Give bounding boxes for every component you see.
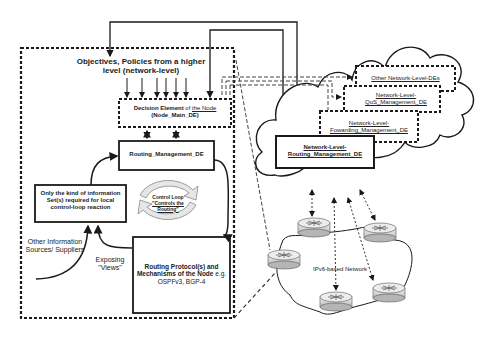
- control-loop-sub2: Routing": [157, 206, 178, 212]
- node-router-link: [234, 272, 276, 318]
- routing-management-label: Routing_Management_DE: [120, 151, 213, 158]
- diagram-canvas: [0, 0, 484, 338]
- the-node-link[interactable]: the Node: [192, 105, 216, 111]
- other-sources-label: Other Information Sources/ Suppliers: [24, 238, 86, 254]
- router-icon: [373, 283, 405, 302]
- forwarding-management-label[interactable]: Network-Level-Fowarding_Management_DE: [322, 120, 416, 134]
- network-routing-management-label[interactable]: Network-Level-Routing_Management_DE: [280, 144, 370, 158]
- router-icon: [268, 250, 300, 269]
- router-icon: [298, 218, 330, 237]
- qos-management-label[interactable]: Network-Level-QoS_Management_DE: [356, 92, 436, 106]
- routing-protocol-bold: Routing Protocol(s) and Mechanisms of th…: [137, 263, 219, 277]
- decision-element-of: of: [184, 105, 192, 111]
- exposing-views-label: Exposing "Views": [92, 256, 128, 272]
- router-icon: [364, 223, 396, 242]
- info-set-label: Only the kind of information Set(s) requ…: [37, 190, 124, 211]
- router-icon: [320, 292, 352, 311]
- objectives-title: Objectives, Policies from a higher level…: [76, 57, 206, 75]
- decision-element-label: Decision Element of the Node (Node_Main_…: [120, 105, 230, 119]
- control-loop-label: Control Loop "Controls the Routing": [143, 195, 193, 212]
- routing-protocol-label: Routing Protocol(s) and Mechanisms of th…: [135, 263, 228, 285]
- policy-arrows: [127, 78, 186, 97]
- decision-element-bold: Decision Element: [134, 105, 184, 111]
- decision-element-id: (Node_Main_DE): [151, 112, 199, 118]
- other-network-des-label[interactable]: Other Network-Level-DEs: [358, 75, 453, 82]
- ipv6-network-label: IPv6-based Network: [305, 266, 375, 273]
- de-routing-arrows: [147, 131, 176, 138]
